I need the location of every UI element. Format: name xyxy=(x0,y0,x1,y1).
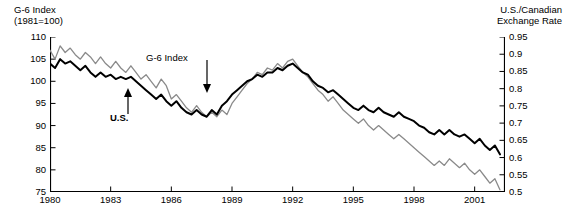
right-tick-0.6: 0.6 xyxy=(509,153,539,163)
right-tick-0.85: 0.85 xyxy=(509,66,539,76)
left-tick-80: 80 xyxy=(20,165,46,175)
right-axis-tick-labels: 0.50.550.60.650.70.750.80.850.90.95 xyxy=(509,37,543,192)
left-axis-title: G-6 Index (1981=100) xyxy=(14,4,63,26)
x-tick-1980: 1980 xyxy=(30,195,70,205)
annotation-arrow-us-icon xyxy=(121,88,135,114)
left-tick-95: 95 xyxy=(20,98,46,108)
annotation-arrow-g6-icon xyxy=(200,60,214,94)
left-tick-105: 105 xyxy=(20,54,46,64)
right-tick-0.7: 0.7 xyxy=(509,118,539,128)
right-tick-0.75: 0.75 xyxy=(509,101,539,111)
left-tick-85: 85 xyxy=(20,143,46,153)
x-tick-1998: 1998 xyxy=(394,195,434,205)
figure-caption xyxy=(0,212,568,221)
left-tick-90: 90 xyxy=(20,121,46,131)
left-tick-100: 100 xyxy=(20,76,46,86)
x-tick-1995: 1995 xyxy=(333,195,373,205)
chart-figure: G-6 Index (1981=100) U.S./Canadian Excha… xyxy=(0,0,568,221)
x-tick-1989: 1989 xyxy=(212,195,252,205)
annotation-g6-index: G-6 Index xyxy=(146,52,188,63)
right-tick-0.9: 0.9 xyxy=(509,49,539,59)
x-axis-tick-labels: 19801983198619891992199519982001 xyxy=(0,195,568,209)
left-axis-tick-labels: 7580859095100105110 xyxy=(18,37,46,192)
x-tick-1992: 1992 xyxy=(273,195,313,205)
x-tick-1983: 1983 xyxy=(91,195,131,205)
right-tick-0.65: 0.65 xyxy=(509,135,539,145)
right-tick-0.95: 0.95 xyxy=(509,32,539,42)
left-tick-110: 110 xyxy=(20,32,46,42)
right-tick-0.8: 0.8 xyxy=(509,84,539,94)
right-axis-title: U.S./Canadian Exchange Rate xyxy=(497,4,562,26)
right-tick-0.55: 0.55 xyxy=(509,170,539,180)
x-tick-2001: 2001 xyxy=(455,195,495,205)
x-tick-1986: 1986 xyxy=(151,195,191,205)
